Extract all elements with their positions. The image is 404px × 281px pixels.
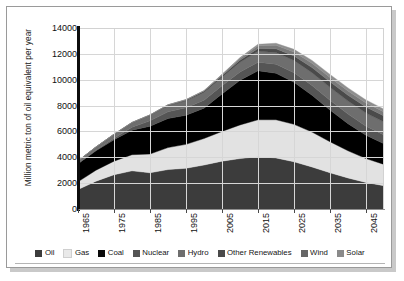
- plot-area: [78, 28, 384, 209]
- vertical-gridline: [222, 28, 223, 209]
- x-axis-line: [78, 209, 385, 210]
- legend-swatch-icon: [133, 250, 140, 257]
- legend-item-wind[interactable]: Wind: [301, 249, 328, 257]
- x-axis-tick-mark: [258, 209, 259, 213]
- x-axis-tick-label: 1985: [154, 213, 163, 233]
- y-axis-tick-label: 8000: [57, 102, 77, 111]
- x-axis-tick-mark: [294, 209, 295, 213]
- y-axis-tick-labels: 14000120001000080006000400020000: [33, 21, 77, 217]
- x-axis-tick-label: 2045: [370, 213, 379, 233]
- x-axis-tick-label: 2005: [226, 213, 235, 233]
- legend-swatch-icon: [98, 250, 105, 257]
- horizontal-gridline: [78, 28, 384, 29]
- y-axis-line: [77, 26, 80, 211]
- legend-label: Oil: [45, 249, 55, 257]
- stacked-area-chart: Million metric ton of oil equivalent per…: [7, 7, 393, 239]
- legend-swatch-icon: [63, 249, 72, 258]
- legend-item-oil[interactable]: Oil: [35, 249, 54, 257]
- x-axis-tick-mark: [78, 209, 79, 213]
- horizontal-gridline: [78, 183, 384, 184]
- horizontal-gridline: [78, 54, 384, 55]
- legend-swatch-icon: [35, 250, 42, 257]
- vertical-gridline: [114, 28, 115, 209]
- legend-item-gas[interactable]: Gas: [63, 249, 89, 258]
- chart-legend: OilGasCoalNuclearHydroOther RenewablesWi…: [7, 245, 393, 261]
- chart-page: Million metric ton of oil equivalent per…: [0, 0, 404, 281]
- y-axis-tick-label: 10000: [52, 76, 77, 85]
- legend-label: Coal: [108, 249, 124, 257]
- vertical-gridline: [258, 28, 259, 209]
- legend-swatch-icon: [301, 250, 308, 257]
- y-axis-title: Million metric ton of oil equivalent per…: [24, 13, 33, 203]
- x-axis-tick-mark: [330, 209, 331, 213]
- legend-swatch-icon: [178, 250, 185, 257]
- y-axis-tick-label: 6000: [57, 127, 77, 136]
- x-axis-tick-label: 1975: [118, 213, 127, 233]
- legend-item-hydro[interactable]: Hydro: [178, 249, 208, 257]
- legend-label: Other Renewables: [227, 249, 292, 257]
- horizontal-gridline: [78, 131, 384, 132]
- vertical-gridline: [186, 28, 187, 209]
- x-axis-tick-mark: [114, 209, 115, 213]
- chart-card: Million metric ton of oil equivalent per…: [6, 6, 392, 268]
- legend-swatch-icon: [218, 250, 225, 257]
- vertical-gridline: [150, 28, 151, 209]
- x-axis-tick-label: 2035: [334, 213, 343, 233]
- legend-item-solar[interactable]: Solar: [337, 249, 365, 257]
- x-axis-tick-mark: [222, 209, 223, 213]
- x-axis-tick-label: 2025: [298, 213, 307, 233]
- y-axis-tick-label: 2000: [57, 179, 77, 188]
- x-axis-tick-mark: [150, 209, 151, 213]
- horizontal-gridline: [78, 106, 384, 107]
- x-axis-tick-mark: [366, 209, 367, 213]
- legend-label: Gas: [75, 249, 89, 257]
- legend-swatch-icon: [337, 250, 344, 257]
- legend-divider: [15, 263, 385, 264]
- y-axis-tick-label: 12000: [52, 50, 77, 59]
- x-axis-tick-label: 1965: [82, 213, 91, 233]
- vertical-gridline: [330, 28, 331, 209]
- x-axis-tick-label: 1995: [190, 213, 199, 233]
- horizontal-gridline: [78, 80, 384, 81]
- y-axis-tick-label: 4000: [57, 153, 77, 162]
- horizontal-gridline: [78, 157, 384, 158]
- legend-label: Solar: [346, 249, 364, 257]
- legend-item-coal[interactable]: Coal: [98, 249, 124, 257]
- x-axis-tick-mark: [186, 209, 187, 213]
- legend-label: Wind: [310, 249, 328, 257]
- x-axis-tick-label: 2015: [262, 213, 271, 233]
- vertical-gridline: [366, 28, 367, 209]
- legend-item-other-renewables[interactable]: Other Renewables: [218, 249, 292, 257]
- y-axis-tick-label: 14000: [52, 24, 77, 33]
- legend-item-nuclear[interactable]: Nuclear: [133, 249, 169, 257]
- legend-label: Hydro: [188, 249, 209, 257]
- area-series-group: [78, 28, 384, 209]
- vertical-gridline: [294, 28, 295, 209]
- legend-label: Nuclear: [142, 249, 169, 257]
